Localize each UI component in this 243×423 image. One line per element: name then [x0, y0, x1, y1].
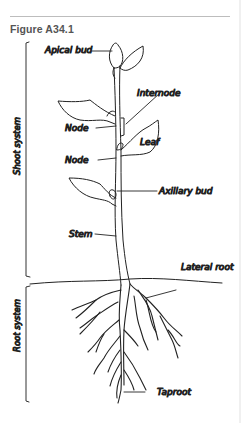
- stem: [114, 66, 130, 285]
- label-internode: Internode: [137, 88, 181, 98]
- label-stem: Stem: [69, 229, 93, 239]
- leaf-lower-left: [69, 178, 116, 206]
- root-system-bracket: [26, 286, 30, 402]
- internode-marker: [121, 118, 124, 136]
- root-system-label: Root system: [12, 299, 22, 352]
- label-taproot: Taproot: [157, 387, 191, 397]
- root-system: [72, 284, 182, 403]
- shoot-system-bracket: [26, 42, 30, 277]
- label-apical-bud: Apical bud: [44, 45, 93, 55]
- label-axillary-bud: Axillary bud: [158, 186, 213, 196]
- label-node-lower: Node: [65, 155, 89, 165]
- label-lateral-root: Lateral root: [181, 262, 234, 272]
- ground-line: [30, 278, 222, 284]
- shoot-system-label: Shoot system: [12, 117, 22, 175]
- label-leaf: Leaf: [140, 137, 161, 147]
- label-node-upper: Node: [65, 123, 89, 133]
- plant-diagram: Shoot system Root system: [0, 0, 243, 423]
- leaf-upper-left: [58, 100, 115, 124]
